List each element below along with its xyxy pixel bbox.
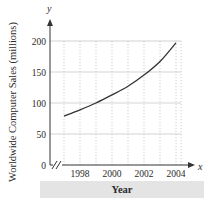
y-tick-label: 150 xyxy=(32,68,47,78)
x-axis-variable: x xyxy=(197,161,203,172)
y-tick-label: 0 xyxy=(41,161,46,171)
series-group xyxy=(64,43,176,116)
x-tick-label: 2000 xyxy=(103,169,122,179)
axes xyxy=(47,19,195,169)
y-axis-label: Worldwide Computer Sales (millions) xyxy=(7,22,19,182)
series-line xyxy=(64,43,176,116)
x-axis-label: Year xyxy=(112,184,133,195)
x-tick-label: 2004 xyxy=(167,169,186,179)
x-axis-arrow xyxy=(188,162,195,168)
y-tick-label: 50 xyxy=(37,130,47,140)
line-chart: 0501001502001998200020022004 Worldwide C… xyxy=(0,0,209,201)
y-axis-arrow xyxy=(47,19,53,26)
y-tick-label: 100 xyxy=(32,99,47,109)
x-tick-label: 1998 xyxy=(71,169,90,179)
x-tick-label: 2002 xyxy=(135,169,154,179)
y-tick-label: 200 xyxy=(32,37,47,47)
y-axis-variable: y xyxy=(46,3,52,14)
